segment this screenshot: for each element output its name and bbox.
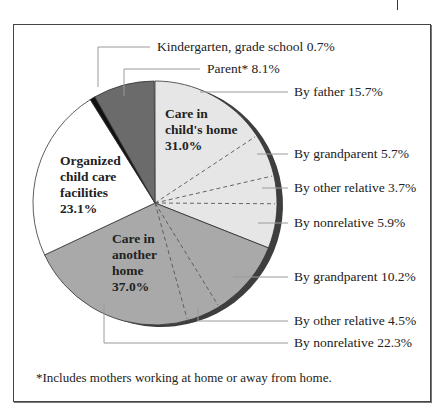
footnote: *Includes mothers working at home or awa…	[36, 370, 332, 385]
label-parent: Parent* 8.1%	[207, 61, 280, 76]
pie-chart: Kindergarten, grade school 0.7% Parent* …	[0, 0, 438, 408]
label-another-grandparent: By grandparent 10.2%	[294, 269, 416, 284]
label-childs-grandparent: By grandparent 5.7%	[294, 146, 409, 161]
label-by-father: By father 15.7%	[294, 84, 383, 99]
label-kindergarten: Kindergarten, grade school 0.7%	[157, 39, 335, 54]
label-another-other-relative: By other relative 4.5%	[294, 313, 416, 328]
label-childs-other-relative: By other relative 3.7%	[294, 180, 416, 195]
label-another-nonrelative: By nonrelative 22.3%	[294, 335, 412, 350]
label-childs-nonrelative: By nonrelative 5.9%	[294, 215, 405, 230]
